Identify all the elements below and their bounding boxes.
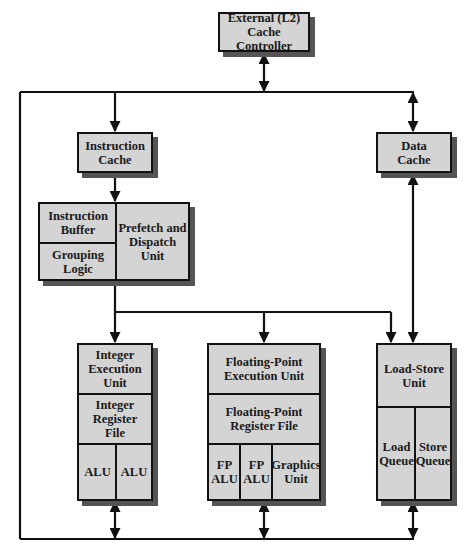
integer-alu-1: ALU	[79, 443, 116, 499]
grouping-logic: Grouping Logic	[40, 242, 116, 279]
l2-cache-controller-label: External (L2) Cache Controller	[220, 14, 308, 50]
load-queue: Load Queue	[378, 406, 415, 499]
integer-execution-unit: Integer Execution Unit	[79, 345, 151, 393]
fp-alu-1: FP ALU	[209, 443, 240, 499]
instruction-buffer: Instruction Buffer	[40, 204, 116, 242]
data-cache-box: Data Cache	[376, 132, 452, 173]
store-queue: Store Queue	[414, 406, 450, 499]
graphics-unit: Graphics Unit	[271, 443, 319, 499]
load-store-unit-box: Load-Store Unit Load Queue Store Queue	[376, 343, 452, 501]
load-store-unit: Load-Store Unit	[378, 345, 450, 406]
fp-alu-2: FP ALU	[239, 443, 272, 499]
fp-unit-box: Floating-Point Execution Unit Floating-P…	[207, 343, 321, 501]
integer-register-file: Integer Register File	[79, 393, 151, 443]
integer-unit-box: Integer Execution Unit Integer Register …	[77, 343, 153, 501]
fp-register-file: Floating-Point Register File	[209, 393, 319, 443]
instruction-cache-label: Instruction Cache	[79, 134, 151, 171]
instruction-cache-box: Instruction Cache	[77, 132, 153, 173]
integer-alu-2: ALU	[115, 443, 151, 499]
l2-cache-controller-box: External (L2) Cache Controller	[218, 12, 310, 52]
fp-execution-unit: Floating-Point Execution Unit	[209, 345, 319, 393]
prefetch-dispatch-unit: Prefetch and Dispatch Unit	[115, 204, 188, 279]
prefetch-dispatch-box: Instruction Buffer Grouping Logic Prefet…	[38, 202, 190, 281]
data-cache-label: Data Cache	[378, 134, 450, 171]
